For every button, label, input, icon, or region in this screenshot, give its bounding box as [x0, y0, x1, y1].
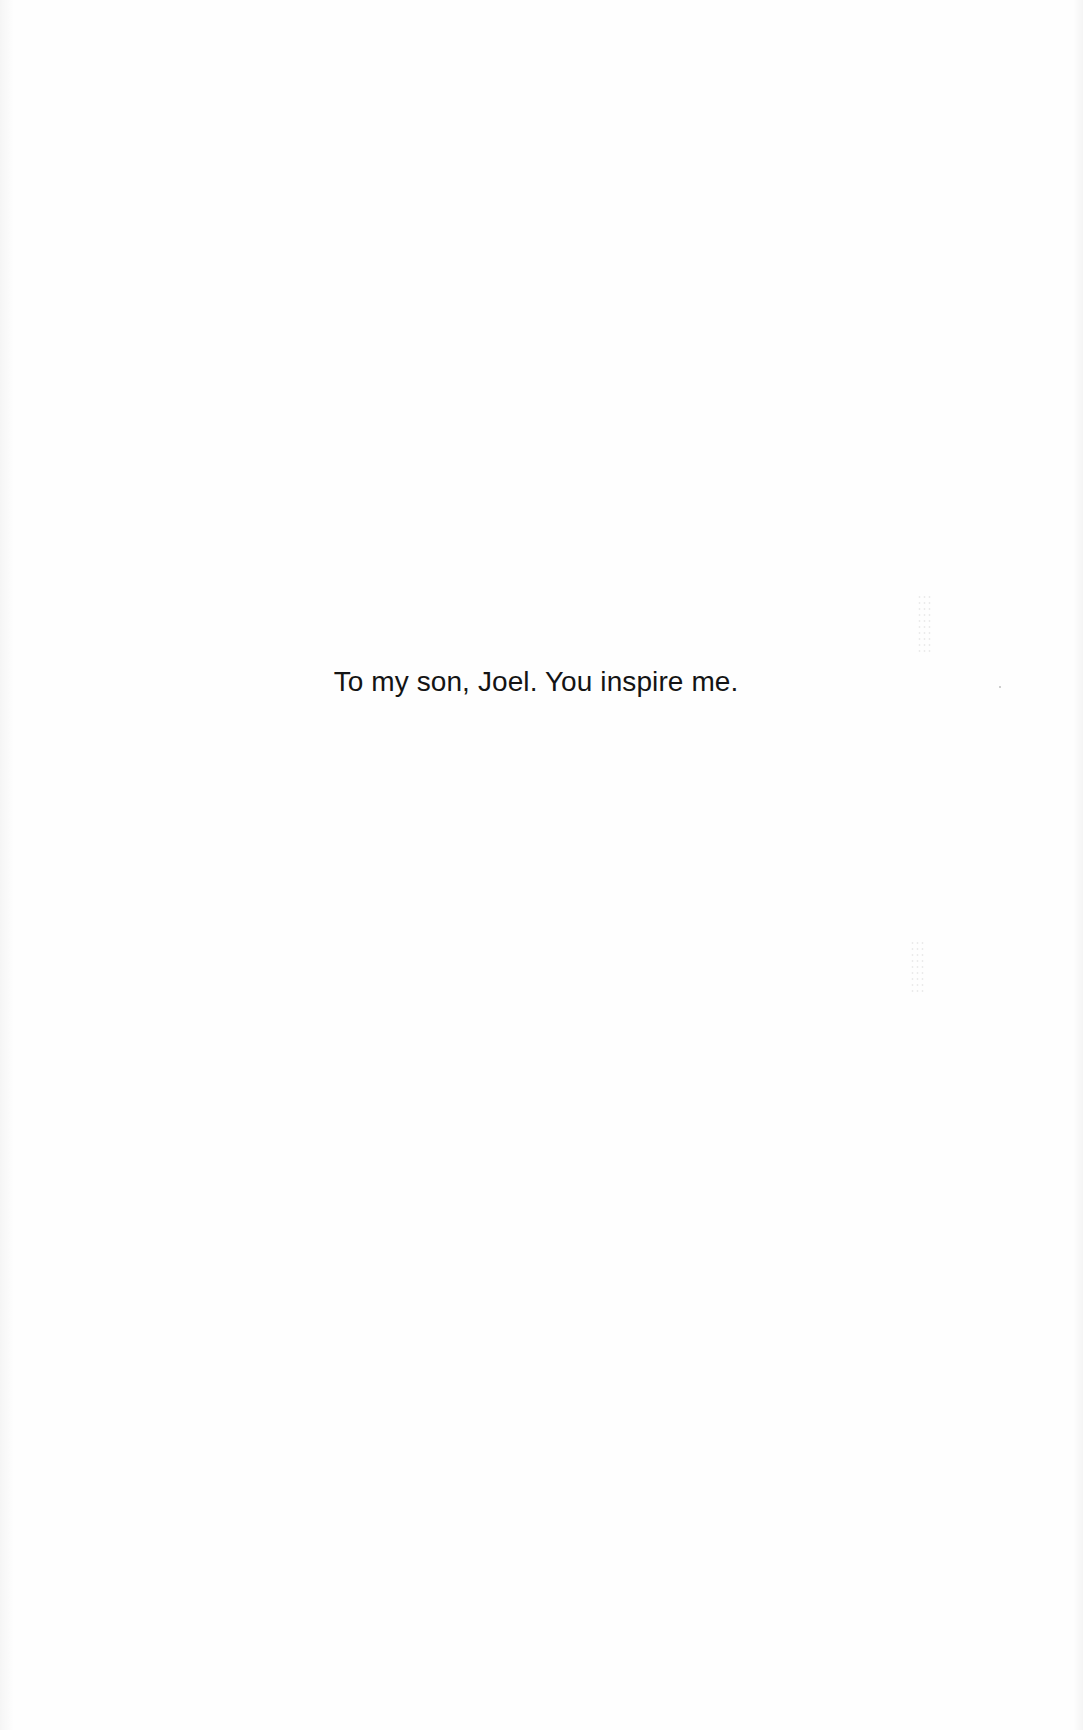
scan-speckle — [917, 594, 931, 654]
book-page: To my son, Joel. You inspire me. — [0, 0, 1083, 1730]
dedication-text: To my son, Joel. You inspire me. — [0, 665, 1072, 699]
scan-speckle — [910, 940, 924, 995]
scan-edge-shadow-right — [1073, 0, 1083, 1730]
scan-edge-shadow-left — [0, 0, 14, 1730]
